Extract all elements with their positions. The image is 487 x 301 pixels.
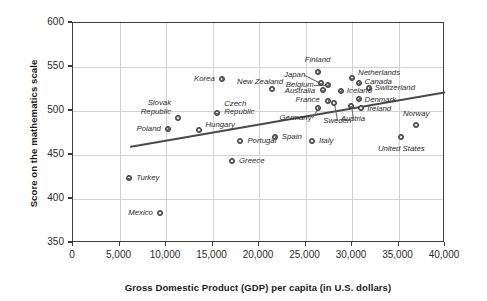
gridline-vertical — [399, 23, 400, 241]
y-tick-label: 450 — [24, 148, 64, 159]
y-tick-mark — [68, 153, 72, 154]
gridline-vertical — [166, 23, 167, 241]
y-tick-mark — [68, 197, 72, 198]
data-point-italy — [309, 138, 315, 144]
point-label-australia: Australia — [285, 87, 315, 96]
point-label-new-zealand: New Zealand — [223, 78, 283, 87]
data-point-slovak-republic — [175, 115, 181, 121]
y-tick-mark — [68, 65, 72, 66]
data-point-czech-republic — [214, 110, 220, 116]
data-point-australia — [320, 87, 326, 93]
x-tick-mark — [305, 242, 306, 246]
data-point-finland — [315, 69, 321, 75]
point-label-united-states: United States — [371, 145, 431, 154]
point-label-finland: Finland — [305, 56, 331, 65]
point-label-poland: Poland — [137, 124, 161, 133]
y-tick-label: 600 — [24, 16, 64, 27]
point-label-korea: Korea — [194, 75, 215, 84]
x-tick-mark — [258, 242, 259, 246]
data-point-united-states — [398, 134, 404, 140]
gridline-horizontal — [73, 199, 443, 200]
data-point-japan — [318, 80, 324, 86]
x-tick-mark — [351, 242, 352, 246]
x-tick-mark — [72, 242, 73, 246]
gridline-vertical — [120, 23, 121, 241]
data-point-belgium — [325, 82, 331, 88]
data-point-germany — [315, 105, 321, 111]
point-label-czech-republic: Czech Republic — [224, 100, 266, 117]
point-label-austria: Austria — [341, 114, 365, 123]
y-tick-label: 350 — [24, 236, 64, 247]
x-tick-mark — [165, 242, 166, 246]
point-label-germany: Germany — [280, 114, 312, 123]
data-point-ireland — [358, 105, 364, 111]
gridline-vertical — [259, 23, 260, 241]
point-label-turkey: Turkey — [136, 174, 159, 183]
data-point-norway — [413, 122, 419, 128]
point-label-denmark: Denmark — [365, 95, 397, 104]
y-tick-label: 500 — [24, 104, 64, 115]
data-point-hungary — [196, 127, 202, 133]
data-point-greece — [229, 158, 235, 164]
point-label-spain: Spain — [282, 133, 302, 142]
y-tick-label: 550 — [24, 60, 64, 71]
data-point-new-zealand — [269, 86, 275, 92]
point-label-hungary: Hungary — [205, 121, 234, 130]
data-point-portugal — [237, 138, 243, 144]
gridline-vertical — [352, 23, 353, 241]
y-tick-mark — [68, 241, 72, 242]
x-tick-mark — [119, 242, 120, 246]
point-label-slovak-republic: Slovak Republic — [129, 99, 171, 116]
data-point-sweden — [331, 100, 337, 106]
data-point-austria — [348, 103, 354, 109]
data-point-mexico — [157, 210, 163, 216]
point-label-ireland: Ireland — [367, 105, 391, 114]
data-point-denmark — [356, 96, 362, 102]
data-point-netherlands — [349, 75, 355, 81]
data-point-poland — [165, 126, 171, 132]
point-label-norway: Norway — [403, 110, 429, 119]
plot-area: TurkeyMexicoPolandSlovak RepublicHungary… — [72, 22, 444, 242]
y-tick-label: 400 — [24, 192, 64, 203]
x-tick-mark — [444, 242, 445, 246]
x-tick-label: 40,000 — [416, 249, 472, 260]
data-point-france — [325, 98, 331, 104]
point-label-portugal: Portugal — [247, 137, 276, 146]
x-axis-title: Gross Domestic Product (GDP) per capita … — [72, 282, 444, 293]
data-point-iceland — [338, 88, 344, 94]
data-point-turkey — [126, 175, 132, 181]
point-label-switzerland: Switzerland — [375, 84, 415, 93]
point-label-italy: Italy — [319, 137, 333, 146]
point-label-mexico: Mexico — [128, 209, 153, 218]
scatter-chart: Score on the mathematics scale Gross Dom… — [0, 0, 487, 301]
point-label-greece: Greece — [239, 157, 265, 166]
x-tick-mark — [398, 242, 399, 246]
point-label-japan: Japan — [284, 71, 305, 80]
point-label-france: France — [296, 96, 320, 105]
x-tick-mark — [212, 242, 213, 246]
y-tick-mark — [68, 109, 72, 110]
y-tick-mark — [68, 21, 72, 22]
